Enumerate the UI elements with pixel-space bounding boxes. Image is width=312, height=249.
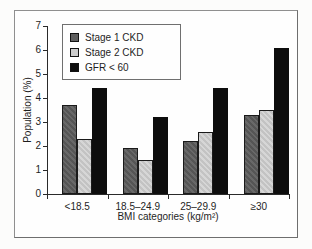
y-tick-label: 3 (21, 116, 41, 128)
bar-stage-2-ckd (138, 160, 153, 194)
bar-gfr-60 (213, 88, 228, 194)
x-axis-tick (229, 195, 230, 199)
bar-stage-2-ckd (77, 139, 92, 194)
y-axis-tick (43, 122, 47, 123)
bar-gfr-60 (274, 48, 289, 194)
bar-stage-1-ckd (62, 105, 77, 194)
x-axis-tick (108, 195, 109, 199)
y-tick-label: 7 (21, 20, 41, 32)
y-tick-label: 0 (21, 188, 41, 200)
legend-swatch-icon (70, 48, 79, 57)
x-axis-tick (289, 195, 290, 199)
y-tick-label: 6 (21, 44, 41, 56)
y-tick-label: 4 (21, 92, 41, 104)
y-axis-tick (43, 170, 47, 171)
x-category-label: ≥30 (250, 201, 267, 213)
x-category-label: <18.5 (65, 201, 90, 213)
y-axis-title: Population (%) (22, 77, 33, 143)
x-axis-tick (168, 195, 169, 199)
legend-item: Stage 1 CKD (70, 30, 174, 45)
y-axis-tick (43, 98, 47, 99)
x-axis-tick (47, 195, 48, 199)
y-tick-label: 2 (21, 140, 41, 152)
legend-label: Stage 1 CKD (85, 32, 143, 43)
y-axis-tick (43, 74, 47, 75)
y-axis-tick (43, 146, 47, 147)
bar-gfr-60 (92, 88, 107, 194)
bar-gfr-60 (153, 117, 168, 194)
legend-item: Stage 2 CKD (70, 45, 174, 60)
bar-stage-1-ckd (183, 141, 198, 194)
bar-stage-1-ckd (123, 148, 138, 194)
legend-swatch-icon (70, 63, 79, 72)
legend-item: GFR < 60 (70, 60, 174, 75)
legend-swatch-icon (70, 33, 79, 42)
figure-canvas: { "chart_data": { "type": "bar", "title"… (0, 0, 312, 249)
legend-label: GFR < 60 (85, 62, 129, 73)
legend: Stage 1 CKDStage 2 CKDGFR < 60 (62, 24, 181, 80)
bar-stage-1-ckd (244, 115, 259, 194)
y-axis-tick (43, 26, 47, 27)
y-tick-label: 5 (21, 68, 41, 80)
figure-frame: Population (%) 01234567<18.518.5–24.925–… (14, 10, 298, 238)
bar-stage-2-ckd (259, 110, 274, 194)
legend-label: Stage 2 CKD (85, 47, 143, 58)
y-tick-label: 1 (21, 164, 41, 176)
x-axis-title: BMI categories (kg/m²) (117, 211, 218, 222)
y-axis-tick (43, 50, 47, 51)
bar-stage-2-ckd (198, 132, 213, 194)
